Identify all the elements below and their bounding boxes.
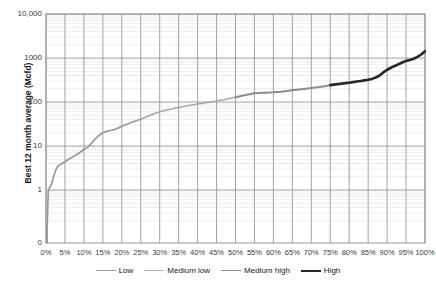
chart-legend: LowMedium lowMedium highHigh bbox=[0, 266, 436, 275]
legend-item[interactable]: Low bbox=[96, 266, 134, 275]
legend-label: Medium low bbox=[167, 266, 210, 275]
legend-item[interactable]: Medium low bbox=[144, 266, 210, 275]
legend-label: Medium high bbox=[244, 266, 290, 275]
legend-item[interactable]: Medium high bbox=[221, 266, 290, 275]
legend-swatch-icon bbox=[96, 270, 116, 271]
legend-swatch-icon bbox=[301, 270, 321, 272]
legend-swatch-icon bbox=[144, 270, 164, 271]
legend-label: High bbox=[324, 266, 340, 275]
x-tick-label: 100% bbox=[411, 249, 436, 257]
legend-item[interactable]: High bbox=[301, 266, 340, 275]
chart-figure: Best 12 month average (Mcfd) 10,00010001… bbox=[0, 0, 436, 293]
legend-swatch-icon bbox=[221, 270, 241, 271]
legend-label: Low bbox=[119, 266, 134, 275]
x-axis-tick-labels: 0%5%10%15%20%25%30%35%40%45%50%55%60%65%… bbox=[0, 0, 436, 293]
